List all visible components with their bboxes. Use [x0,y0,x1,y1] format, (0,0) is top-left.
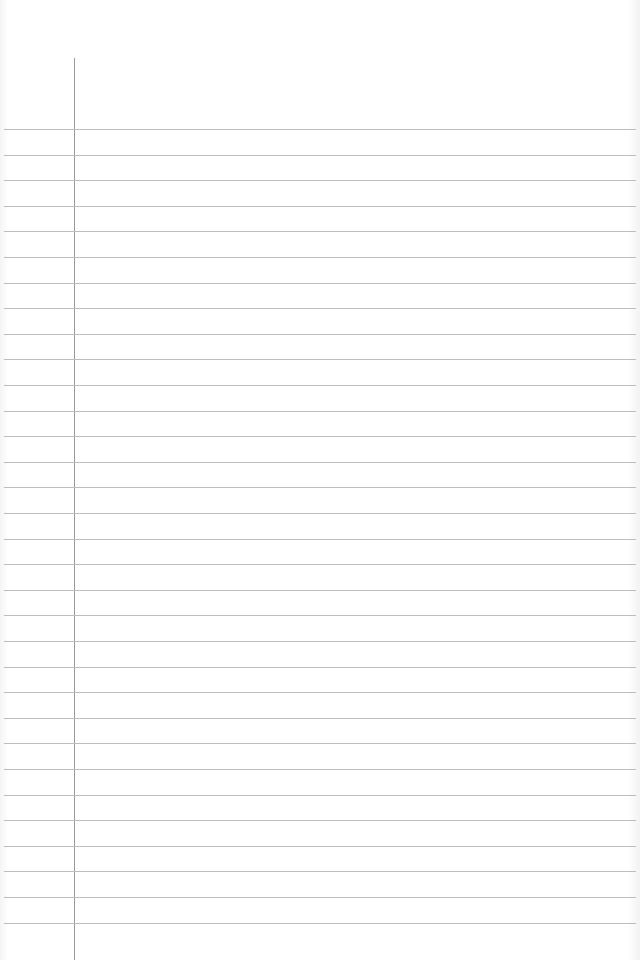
ruled-line [4,923,636,924]
ruled-line [4,743,636,744]
ruled-line [4,462,636,463]
ruled-line [4,769,636,770]
ruled-line [4,334,636,335]
ruled-line [4,692,636,693]
ruled-line [4,667,636,668]
notebook-page [0,0,640,960]
ruled-line [4,641,636,642]
ruled-line [4,436,636,437]
ruled-line [4,231,636,232]
ruled-line [4,308,636,309]
ruled-line [4,359,636,360]
ruled-line [4,513,636,514]
ruled-line [4,795,636,796]
ruled-line [4,590,636,591]
ruled-line [4,718,636,719]
ruled-line [4,155,636,156]
ruled-line [4,180,636,181]
ruled-line [4,564,636,565]
ruled-line [4,871,636,872]
ruled-line [4,283,636,284]
ruled-line [4,846,636,847]
ruled-line [4,129,636,130]
ruled-line [4,206,636,207]
ruled-line [4,385,636,386]
ruled-line [4,897,636,898]
ruled-line [4,257,636,258]
margin-line [74,58,75,960]
ruled-line [4,615,636,616]
ruled-line [4,539,636,540]
ruled-line [4,487,636,488]
ruled-line [4,411,636,412]
ruled-line [4,820,636,821]
